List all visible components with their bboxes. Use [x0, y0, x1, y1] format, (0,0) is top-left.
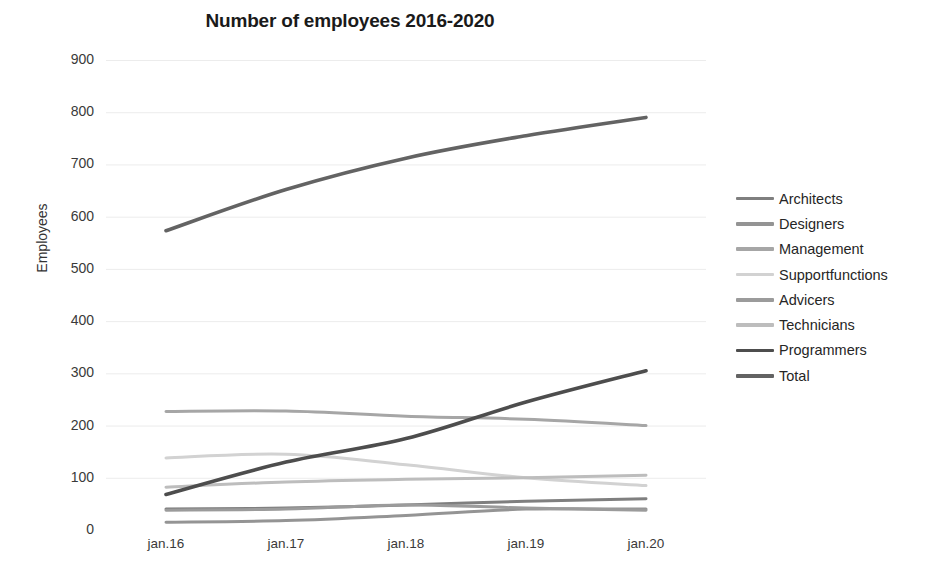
gridlines: [106, 61, 706, 531]
legend-color-swatch: [736, 273, 774, 277]
legend-item-label: Total: [779, 368, 810, 384]
x-axis-tick-label: jan.16: [121, 536, 211, 551]
legend-color-swatch: [736, 349, 774, 353]
legend-color-swatch: [736, 323, 774, 327]
legend-item[interactable]: Total: [736, 363, 932, 388]
y-axis-tick-label: 700: [34, 155, 94, 171]
legend-item[interactable]: Management: [736, 237, 932, 262]
chart-container: Number of employees 2016-2020 Employees …: [0, 0, 932, 585]
legend-item[interactable]: Supportfunctions: [736, 262, 932, 287]
legend-color-swatch: [736, 298, 774, 302]
y-axis-tick-label: 400: [34, 312, 94, 328]
legend-item-label: Designers: [779, 216, 844, 232]
legend-color-swatch: [736, 247, 774, 251]
y-axis-tick-label: 500: [34, 260, 94, 276]
legend-item-label: Supportfunctions: [779, 267, 888, 283]
y-axis-tick-label: 900: [34, 51, 94, 67]
legend-color-swatch: [736, 374, 774, 378]
legend-item-label: Programmers: [779, 342, 867, 358]
legend-item[interactable]: Technicians: [736, 312, 932, 337]
series-line: [166, 454, 646, 486]
x-axis-tick-label: jan.20: [601, 536, 691, 551]
y-axis-tick-label: 300: [34, 364, 94, 380]
legend-item[interactable]: Advicers: [736, 287, 932, 312]
plot-area: [106, 60, 706, 530]
legend-color-swatch: [736, 222, 774, 226]
x-axis-tick-label: jan.17: [241, 536, 331, 551]
chart-legend: ArchitectsDesignersManagementSupportfunc…: [736, 186, 932, 388]
legend-item[interactable]: Architects: [736, 186, 932, 211]
chart-title: Number of employees 2016-2020: [0, 10, 700, 32]
y-axis-tick-label: 600: [34, 208, 94, 224]
legend-item-label: Management: [779, 241, 864, 257]
chart-plot-svg: [106, 60, 706, 530]
series-line: [166, 117, 646, 230]
y-axis-tick-labels: 0100200300400500600700800900: [34, 0, 94, 585]
x-axis-tick-label: jan.19: [481, 536, 571, 551]
legend-item-label: Architects: [779, 191, 843, 207]
y-axis-tick-label: 100: [34, 469, 94, 485]
legend-item-label: Advicers: [779, 292, 835, 308]
legend-item[interactable]: Designers: [736, 211, 932, 236]
y-axis-tick-label: 200: [34, 417, 94, 433]
x-axis-tick-label: jan.18: [361, 536, 451, 551]
legend-color-swatch: [736, 197, 774, 201]
series-line: [166, 411, 646, 426]
y-axis-tick-label: 0: [34, 521, 94, 537]
legend-item-label: Technicians: [779, 317, 855, 333]
legend-item[interactable]: Programmers: [736, 338, 932, 363]
y-axis-tick-label: 800: [34, 103, 94, 119]
